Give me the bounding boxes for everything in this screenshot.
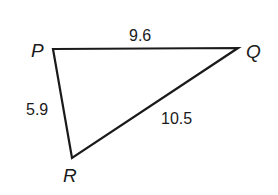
vertex-label-r: R xyxy=(63,165,77,186)
side-label-qr: 10.5 xyxy=(161,110,192,127)
side-label-pq: 9.6 xyxy=(129,27,151,44)
triangle-figure: P Q R 9.6 5.9 10.5 xyxy=(0,0,278,195)
side-label-pr: 5.9 xyxy=(26,101,48,118)
triangle-pqr xyxy=(53,48,238,158)
vertex-label-q: Q xyxy=(246,41,261,62)
triangle-diagram: P Q R 9.6 5.9 10.5 xyxy=(0,0,278,195)
vertex-label-p: P xyxy=(31,40,44,61)
